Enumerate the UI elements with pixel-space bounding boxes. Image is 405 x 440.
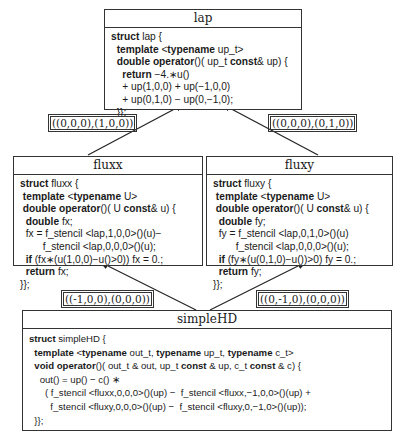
- code-line: double fy;: [213, 216, 388, 229]
- code-line: template <typename out_t, typename up_t,…: [29, 346, 387, 360]
- code-line: struct lap {: [111, 31, 297, 44]
- code-line: double operator()( U const& u) {: [20, 203, 198, 216]
- code-line: f_stencil <lap,0,0,0>()(u);: [213, 241, 388, 254]
- code-line: double operator()( up_t const& up) {: [111, 56, 297, 69]
- node-lap: lap struct lap { template <typename up_t…: [104, 9, 302, 110]
- code-line: fx = f_stencil <lap,1,0,0>()(u)−: [20, 228, 198, 241]
- code-line: }};: [29, 414, 387, 428]
- code-line: void operator()( out_t & out, up_t const…: [29, 359, 387, 373]
- code-line: }};: [213, 279, 388, 292]
- edge-label-simplehd-fluxx: ((-1,0,0),(0,0,0)): [63, 292, 152, 306]
- node-code: struct simpleHD { template <typename out…: [23, 329, 391, 429]
- edge-label-fluxy-lap: ((0,0,0),(0,1,0)): [270, 116, 355, 130]
- code-line: template <typename up_t>: [111, 44, 297, 57]
- code-line: template <typename U>: [213, 191, 388, 204]
- code-line: struct fluxx {: [20, 178, 198, 191]
- code-line: return −4.∗u(): [111, 69, 297, 82]
- code-line: double operator()( U const& u) {: [213, 203, 388, 216]
- node-fluxx: fluxx struct fluxx { template <typename …: [13, 156, 203, 266]
- code-line: f_stencil <lap,0,0,0>()(u);: [20, 241, 198, 254]
- code-line: fy = f_stencil <lap,0,1,0>()(u): [213, 228, 388, 241]
- code-line: + up(1,0,0) + up(−1,0,0): [111, 81, 297, 94]
- edge-label-simplehd-fluxy: ((0,-1,0),(0,0,0)): [258, 292, 347, 306]
- code-line: struct simpleHD {: [29, 332, 387, 346]
- node-title: lap: [105, 10, 301, 28]
- code-line: if (fx∗(u(1,0,0)−u()>0)) fx = 0.;: [20, 254, 198, 267]
- node-title: fluxy: [207, 157, 392, 175]
- code-line: template <typename U>: [20, 191, 198, 204]
- code-line: struct fluxy {: [213, 178, 388, 191]
- node-title: fluxx: [14, 157, 202, 175]
- code-line: ( f_stencil <fluxx,0,0,0>()(up) − f_sten…: [29, 386, 387, 400]
- code-line: f_stencil <fluxy,0,0,0>()(up) − f_stenci…: [29, 400, 387, 414]
- code-line: return fx;: [20, 266, 198, 279]
- code-line: + up(0,1,0) − up(0,−1,0);: [111, 94, 297, 107]
- node-simplehd: simpleHD struct simpleHD { template <typ…: [22, 310, 392, 431]
- code-line: out() = up() − c() ∗: [29, 373, 387, 387]
- edge-label-fluxx-lap: ((0,0,0),(1,0,0)): [50, 116, 135, 130]
- code-line: double fx;: [20, 216, 198, 229]
- node-code: struct fluxy { template <typename U> dou…: [207, 175, 392, 293]
- code-line: return fy;: [213, 266, 388, 279]
- code-line: }};: [20, 279, 198, 292]
- node-code: struct fluxx { template <typename U> dou…: [14, 175, 202, 293]
- node-code: struct lap { template <typename up_t> do…: [105, 28, 301, 121]
- node-fluxy: fluxy struct fluxy { template <typename …: [206, 156, 393, 266]
- node-title: simpleHD: [23, 311, 391, 329]
- code-line: if (fy∗(u(0,1,0)−u())>0) fy = 0.;: [213, 254, 388, 267]
